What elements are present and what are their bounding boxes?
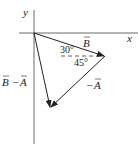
label-BminusA-A: A <box>19 76 27 88</box>
angle-45: 45° <box>74 57 88 68</box>
x-axis-label: x <box>126 32 132 44</box>
label-BminusA-minus: − <box>12 76 19 88</box>
y-axis-label: y <box>22 6 28 18</box>
label-B: B <box>83 37 90 49</box>
label-neg-A: A <box>93 79 101 91</box>
vector-diagram: x y B 30° 45° − A B − A <box>0 0 138 144</box>
angle-30: 30° <box>60 44 74 55</box>
label-BminusA-B: B <box>2 76 9 88</box>
vector-B-minus-A <box>34 33 50 107</box>
label-neg-A-sign: − <box>86 79 93 91</box>
